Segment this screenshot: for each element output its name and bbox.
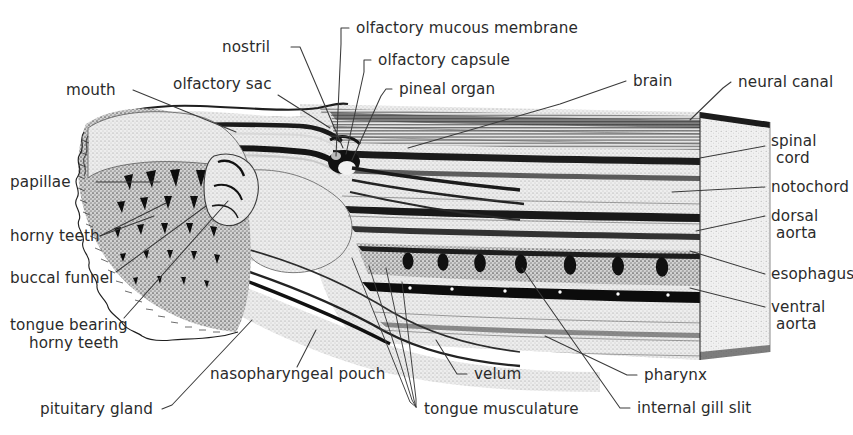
- label-brain: brain: [633, 72, 673, 90]
- lamprey-head-diagram: mouth olfactory sac nostril olfactory mu…: [0, 0, 853, 435]
- label-nasopharyngeal-pouch: nasopharyngeal pouch: [210, 365, 385, 383]
- label-dorsal-aorta-line2: aorta: [776, 224, 817, 242]
- label-tongue-bearing-line2: horny teeth: [29, 334, 119, 352]
- label-olfactory-capsule: olfactory capsule: [378, 51, 510, 69]
- label-pituitary-gland: pituitary gland: [40, 400, 153, 418]
- label-ventral-aorta-line2: aorta: [776, 315, 817, 333]
- label-notochord: notochord: [771, 178, 849, 196]
- label-olfactory-mucous-membrane: olfactory mucous membrane: [356, 19, 578, 37]
- label-spinal-cord-line2: cord: [776, 149, 810, 167]
- label-velum: velum: [474, 365, 521, 383]
- label-internal-gill-slit: internal gill slit: [637, 399, 751, 417]
- label-ventral-aorta-line1: ventral: [771, 298, 825, 316]
- label-spinal-cord-line1: spinal: [771, 132, 817, 150]
- label-mouth: mouth: [66, 81, 116, 99]
- cut-face: [700, 112, 770, 360]
- label-tongue-bearing-line1: tongue bearing: [10, 316, 128, 334]
- label-olfactory-sac: olfactory sac: [173, 75, 272, 93]
- label-neural-canal: neural canal: [738, 73, 833, 91]
- label-pineal-organ: pineal organ: [399, 80, 495, 98]
- label-pharynx: pharynx: [644, 366, 707, 384]
- label-horny-teeth: horny teeth: [10, 227, 100, 245]
- buccal-funnel: [76, 109, 259, 341]
- label-tongue-musculature: tongue musculature: [424, 400, 579, 418]
- label-esophagus: esophagus: [771, 265, 853, 283]
- label-papillae: papillae: [10, 173, 71, 191]
- label-nostril: nostril: [222, 38, 270, 56]
- label-dorsal-aorta-line1: dorsal: [771, 207, 818, 225]
- label-buccal-funnel: buccal funnel: [10, 269, 113, 287]
